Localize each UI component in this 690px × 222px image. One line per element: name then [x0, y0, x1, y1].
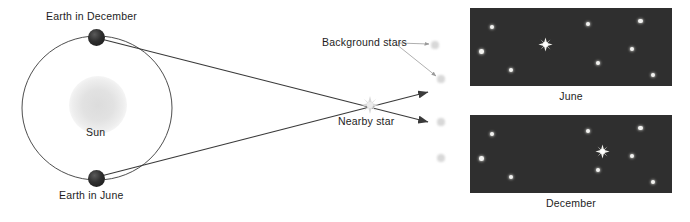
panel-star	[509, 68, 513, 72]
panel-caption-june: June	[470, 90, 672, 102]
earth-june-marker	[88, 170, 105, 187]
sky-panel-december	[470, 115, 672, 193]
panel-star	[479, 156, 484, 161]
leader-line-lower	[396, 44, 436, 76]
label-background-stars: Background stars	[322, 36, 407, 48]
panel-caption-december: December	[470, 197, 672, 209]
background-star-4	[437, 154, 445, 162]
background-star-1	[431, 41, 438, 48]
panel-star	[596, 61, 600, 65]
background-star-3	[437, 118, 444, 125]
label-sun: Sun	[86, 126, 105, 138]
panel-star	[509, 175, 513, 179]
sight-line-december	[101, 39, 428, 122]
panel-star	[630, 47, 634, 51]
panel-star	[651, 73, 656, 78]
label-nearby-star: Nearby star	[338, 115, 394, 127]
panel-star	[490, 132, 494, 136]
panel-star	[586, 22, 590, 26]
panel-star	[651, 180, 656, 185]
panel-nearby-star-june	[538, 37, 553, 52]
panel-star	[638, 126, 643, 131]
label-earth-june: Earth in June	[59, 189, 123, 201]
panel-star	[638, 19, 643, 24]
parallax-diagram: Earth in December Earth in June Sun Back…	[0, 0, 690, 222]
panel-star	[490, 25, 494, 29]
panel-star	[596, 168, 600, 172]
panel-star	[630, 154, 634, 158]
earth-december-marker	[88, 29, 105, 46]
background-star-2	[437, 75, 444, 82]
panel-nearby-star-december	[595, 144, 610, 159]
panel-star	[479, 49, 484, 54]
sky-panel-june	[470, 8, 672, 86]
sight-line-june	[101, 92, 428, 176]
label-earth-december: Earth in December	[46, 10, 137, 22]
nearby-star-glyph	[361, 96, 379, 114]
panel-star	[586, 129, 590, 133]
